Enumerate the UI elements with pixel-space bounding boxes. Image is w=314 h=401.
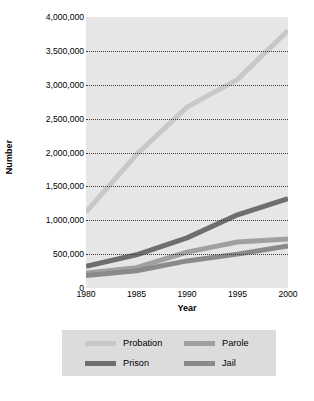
legend-row: PrisonJail <box>62 354 276 372</box>
series-line-probation <box>86 31 288 213</box>
x-axis-title: Year <box>86 303 288 313</box>
y-tick-label: 2,000,000 <box>20 148 84 157</box>
y-tick-label: 3,000,000 <box>20 80 84 89</box>
line-chart-figure: Number 0500,0001,000,0001,500,0002,000,0… <box>0 0 314 401</box>
x-tick-label: 1985 <box>117 289 157 299</box>
legend-item-prison[interactable]: Prison <box>62 354 169 372</box>
x-tick-label: 1995 <box>218 289 258 299</box>
chart-legend: ProbationParolePrisonJail <box>62 330 276 376</box>
x-tick-label: 1980 <box>66 289 106 299</box>
gridline <box>86 153 288 154</box>
legend-label: Parole <box>222 338 249 348</box>
x-tick-label: 1990 <box>167 289 207 299</box>
legend-swatch-icon <box>184 341 215 346</box>
gridline <box>86 119 288 120</box>
y-axis-title: Number <box>4 127 14 187</box>
y-tick-label: 3,500,000 <box>20 46 84 55</box>
series-line-prison <box>86 199 288 267</box>
legend-item-parole[interactable]: Parole <box>169 334 276 352</box>
y-tick-label: 1,500,000 <box>20 182 84 191</box>
series-line-parole <box>86 239 288 273</box>
legend-item-probation[interactable]: Probation <box>62 334 169 352</box>
x-axis-tick-labels: 19801985199019952000 <box>86 289 288 301</box>
y-tick-label: 2,500,000 <box>20 114 84 123</box>
legend-label: Prison <box>123 358 149 368</box>
y-tick-label: 4,000,000 <box>20 13 84 22</box>
legend-swatch-icon <box>184 361 215 366</box>
plot-area <box>86 17 288 288</box>
legend-item-jail[interactable]: Jail <box>169 354 276 372</box>
gridline <box>86 186 288 187</box>
legend-label: Jail <box>222 358 236 368</box>
legend-row: ProbationParole <box>62 334 276 352</box>
gridline <box>86 51 288 52</box>
y-tick-label: 1,000,000 <box>20 216 84 225</box>
gridline <box>86 254 288 255</box>
legend-label: Probation <box>123 338 162 348</box>
gridline <box>86 220 288 221</box>
gridline <box>86 85 288 86</box>
legend-swatch-icon <box>85 361 116 366</box>
y-tick-label: 500,000 <box>20 250 84 259</box>
legend-swatch-icon <box>85 341 116 346</box>
x-tick-label: 2000 <box>268 289 308 299</box>
y-axis-tick-labels: 0500,0001,000,0001,500,0002,000,0002,500… <box>20 13 84 288</box>
